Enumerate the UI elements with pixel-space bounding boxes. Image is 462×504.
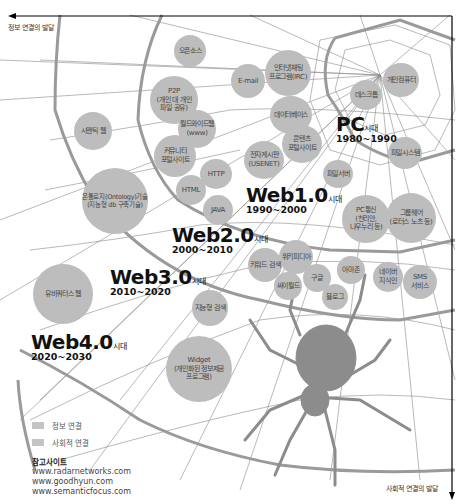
- node-open-source: 오픈소스: [174, 35, 206, 67]
- node-semantic-web: 시맨틱 웹: [74, 112, 112, 150]
- node-community-portal: 커뮤니티 포털사이트: [154, 135, 196, 177]
- node-content-portal: 콘텐츠 포털사이트: [282, 125, 322, 163]
- reference-link: www.goodhyun.com: [32, 477, 131, 487]
- legend-swatch: [32, 422, 44, 429]
- legend: 정보 연결 사회적 연결: [32, 420, 89, 454]
- node-java: JAVA: [203, 195, 233, 225]
- horizontal-axis-label: 정보 연결의 발달: [8, 22, 54, 32]
- legend-swatch: [32, 439, 44, 446]
- node-sms: SMS 서비스: [403, 265, 437, 299]
- legend-item-info: 정보 연결: [32, 420, 89, 431]
- references: 참고사이트 www.radarnetworks.com www.goodhyun…: [32, 458, 131, 497]
- node-blog: 블로그: [322, 284, 348, 310]
- node-personal-computer: 개인컴퓨터: [383, 63, 419, 97]
- node-amazon: 아마존: [337, 256, 365, 284]
- era-web4: Web4.0시대 2020~2030: [31, 330, 127, 362]
- node-ontology: 온톨로지(Ontology)기술 (지능형 db 구축기술): [82, 168, 148, 234]
- era-web3: Web3.0시대 2010~2020: [110, 265, 206, 297]
- node-ubiquitous-web: 유비쿼터스 웹: [33, 264, 93, 324]
- era-pc: PC시대 1980~1990: [336, 112, 397, 144]
- node-widget: Widget (개인화된 정보제공 프로그램): [166, 336, 232, 402]
- node-desktop: 데스크톱: [350, 80, 382, 110]
- node-html: HTML: [176, 175, 206, 205]
- node-email: E-mail: [231, 64, 265, 98]
- vertical-axis-label: 사회적 연결의 발달: [386, 483, 438, 493]
- node-naver-kin: 네이버 지식인: [373, 262, 403, 292]
- legend-item-social: 사회적 연결: [32, 437, 89, 448]
- reference-link: www.semanticfocus.com: [32, 487, 131, 497]
- node-cyworld: 싸이월드: [274, 272, 302, 300]
- node-groupware: 그룹웨어 (로터스 노츠 등): [386, 193, 436, 243]
- node-pc-communication: PC통신 (천리안, 나우누리 등): [342, 195, 390, 243]
- node-irc: 인터넷채팅 프로그램(IRC): [265, 50, 311, 96]
- node-usenet: 전자게시판 (USENET): [244, 141, 284, 179]
- era-web2: Web2.0시대 2000~2010: [172, 223, 268, 255]
- left-arrow-icon: [8, 13, 16, 19]
- reference-link: www.radarnetworks.com: [32, 467, 131, 477]
- down-arrow-icon: [449, 492, 455, 500]
- era-web1: Web1.0시대 1990~2000: [246, 183, 342, 215]
